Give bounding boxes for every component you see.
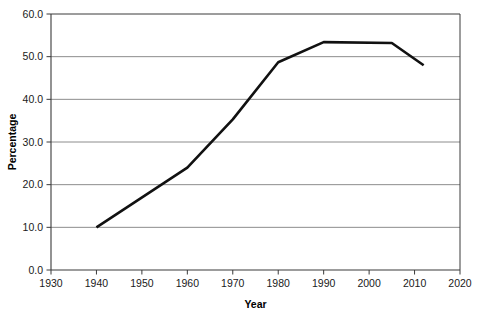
line-chart: 1930194019501960197019801990200020102020… [0,0,484,322]
y-tick-label: 30.0 [23,136,44,148]
x-axis-ticks [51,270,460,275]
y-axis-title: Percentage [6,114,18,171]
y-axis-ticks [47,14,52,270]
x-axis-tick-labels: 1930194019501960197019801990200020102020 [39,277,472,289]
x-axis-title: Year [244,298,266,310]
y-tick-label: 20.0 [23,178,44,190]
x-tick-label: 2010 [403,277,427,289]
x-tick-label: 1980 [267,277,291,289]
y-axis-tick-labels: 0.010.020.030.040.050.060.0 [23,8,44,276]
y-tick-label: 0.0 [28,264,43,276]
y-tick-label: 50.0 [23,50,44,62]
x-tick-label: 1990 [312,277,336,289]
x-tick-label: 1960 [176,277,200,289]
x-tick-label: 1930 [39,277,63,289]
x-tick-label: 2000 [357,277,381,289]
x-tick-label: 2020 [448,277,472,289]
y-tick-label: 10.0 [23,221,44,233]
y-tick-label: 60.0 [23,8,44,20]
x-tick-label: 1950 [130,277,154,289]
y-tick-label: 40.0 [23,93,44,105]
chart-container: 1930194019501960197019801990200020102020… [0,0,484,322]
x-tick-label: 1970 [221,277,245,289]
x-tick-label: 1940 [85,277,109,289]
